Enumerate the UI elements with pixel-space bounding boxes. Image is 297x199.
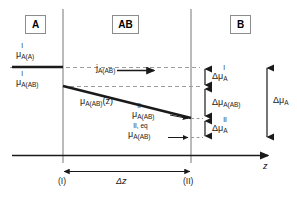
label-delta-mu-I-A: ΔμAIA <box>212 72 228 81</box>
mu-subscript: A(A) <box>21 54 34 61</box>
delta-subscript: A <box>223 128 227 135</box>
boundary-label-I: (I) <box>58 177 66 186</box>
mu-subscript: A(AB) <box>133 134 150 141</box>
delta-superscript: I <box>223 65 225 72</box>
delta-subscript: A <box>284 99 288 106</box>
delta-mu-glyph: Δμ <box>273 95 284 105</box>
delta-mu-glyph: Δμ <box>212 71 223 81</box>
delta-z-text: Δz <box>116 176 127 186</box>
diagram-canvas: A AB B μA(A)IA(A) μA(AB)IA(AB) jA(AB) μA… <box>0 0 297 199</box>
z-glyph: z <box>263 161 268 171</box>
mu-subscript: A(AB) <box>85 100 102 107</box>
delta-mu-glyph: Δμ <box>212 123 223 133</box>
mu-subscript: A(AB) <box>137 114 154 121</box>
delta-superscript: II <box>223 117 227 124</box>
label-mu-I-A-A: μA(A)IA(A) <box>16 50 34 59</box>
region-box-B: B <box>230 15 251 34</box>
mu-superscript: II <box>137 103 141 110</box>
boundary-label-II: (II) <box>183 177 193 186</box>
mu-superscript: II, eq <box>133 123 147 130</box>
flux-subscript: A(AB) <box>98 67 115 74</box>
mu-superscript: I <box>21 43 23 50</box>
boundary-I-text: (I) <box>58 176 66 186</box>
label-delta-z: Δz <box>116 177 127 186</box>
label-flux-j-A-AB: jA(AB) <box>96 64 115 74</box>
label-delta-mu-A-AB: ΔμA(AB) <box>212 98 241 108</box>
label-mu-II-A-AB: μA(AB)IIA(AB) <box>132 110 155 119</box>
delta-subscript: A(AB) <box>223 101 240 108</box>
region-box-AB: AB <box>112 15 139 34</box>
label-delta-mu-A-total: ΔμA <box>273 96 289 106</box>
delta-subscript: A <box>223 76 227 83</box>
mu-superscript: I <box>21 71 23 78</box>
delta-mu-glyph: Δμ <box>212 97 223 107</box>
label-mu-I-A-AB: μA(AB)IA(AB) <box>16 78 39 87</box>
label-delta-mu-II-A: ΔμAIIA <box>212 124 228 133</box>
mu-subscript: A(AB) <box>21 82 38 89</box>
label-mu-A-AB-of-z: μA(AB)(z) <box>80 97 113 107</box>
region-label-B: B <box>237 20 244 30</box>
axis-label-z: z <box>263 162 268 171</box>
region-box-A: A <box>25 15 46 34</box>
region-label-AB: AB <box>118 20 132 30</box>
boundary-II-text: (II) <box>183 176 193 186</box>
label-mu-II-eq-A-AB: μA(AB)II, eqA(AB) <box>128 130 151 139</box>
mu-argument: (z) <box>103 96 114 106</box>
region-label-A: A <box>32 20 39 30</box>
